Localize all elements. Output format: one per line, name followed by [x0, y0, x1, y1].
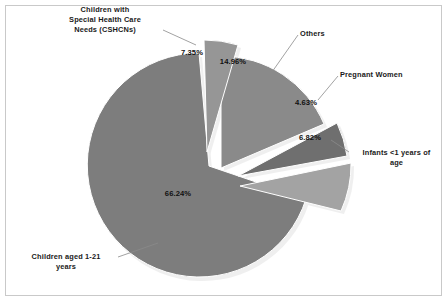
pie-value-children-1-21: 66.24%: [152, 189, 204, 198]
pie-label-children-1-21: Children aged 1-21 years: [16, 252, 116, 272]
leader-line-cshcn: [163, 30, 196, 45]
leader-line-pregnant: [318, 76, 338, 100]
pie-value-infants: 6.82%: [290, 133, 330, 142]
pie-label-infants: Infants <1 years of age: [349, 148, 444, 168]
leader-line-others: [272, 35, 298, 72]
pie-label-cshcn: Children with Special Health Care Needs …: [47, 5, 163, 34]
pie-value-others: 14.96%: [210, 57, 256, 66]
pie-chart-figure: Children with Special Health Care Needs …: [0, 0, 448, 302]
pie-label-pregnant-women: Pregnant Women: [340, 70, 440, 80]
pie-value-cshcn: 7.35%: [172, 48, 212, 57]
pie-label-others: Others: [300, 29, 380, 39]
pie-value-pregnant-women: 4.63%: [286, 98, 326, 107]
